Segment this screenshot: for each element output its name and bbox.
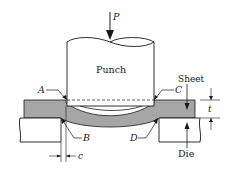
label-force-p: P	[112, 11, 120, 22]
punch-die-diagram: P Punch Sheet A C B D Die t c	[0, 0, 234, 178]
die-left	[19, 118, 61, 142]
label-die: Die	[178, 148, 195, 159]
leader-c	[155, 90, 174, 99]
die-right	[159, 118, 201, 142]
dim-t-arrow-bottom	[209, 118, 213, 122]
label-b: B	[82, 132, 90, 143]
dim-t-arrow-top	[209, 96, 213, 100]
label-thickness-t: t	[208, 104, 212, 114]
leader-a	[46, 90, 66, 99]
punch-top-wave	[110, 38, 154, 43]
dim-c-arrow-right	[66, 155, 70, 158]
label-c: C	[175, 84, 183, 95]
label-sheet: Sheet	[178, 74, 205, 84]
label-clearance-c: c	[78, 151, 83, 161]
sheet-upper-curve	[80, 106, 142, 111]
dim-c-arrow-left	[57, 155, 61, 158]
force-arrow-head	[106, 30, 114, 40]
label-punch: Punch	[96, 64, 126, 75]
label-d: D	[129, 132, 138, 143]
label-a: A	[37, 84, 45, 95]
